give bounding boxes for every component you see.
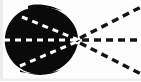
figure-container: Dark blob with dashed lines radiating fr…	[0, 0, 141, 81]
figure-canvas	[0, 0, 141, 81]
scan-edge-left	[0, 0, 3, 81]
scan-edge-bottom	[0, 79, 141, 82]
